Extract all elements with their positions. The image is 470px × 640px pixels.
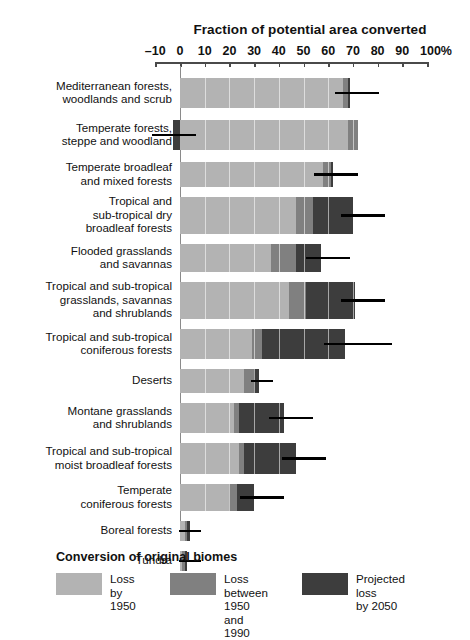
bar-segment-loss-by-1950 xyxy=(180,369,244,393)
bar-row: Tropical and sub-tropical dry broadleaf … xyxy=(0,197,470,234)
legend-label: Loss between 1950 and 1990 xyxy=(224,572,268,640)
bar-row: Temperate coniferous forests xyxy=(0,484,470,511)
bar-segment-loss-1950-1990 xyxy=(296,197,313,234)
legend-label: Loss by 1950 xyxy=(110,572,136,613)
plot-area: Mediterranean forests, woodlands and scr… xyxy=(0,66,470,538)
bar-segment-loss-by-1950 xyxy=(180,443,239,474)
bar-segment-loss-by-1950 xyxy=(180,484,229,511)
bar-row: Boreal forests xyxy=(0,521,470,541)
stacked-bar xyxy=(0,282,470,319)
x-axis-tick-label: 100% xyxy=(420,44,452,58)
bar-row: Montane grasslands and shrublands xyxy=(0,403,470,433)
x-axis-tick-label: 60 xyxy=(321,44,335,58)
bar-segment-loss-by-1950 xyxy=(180,78,343,108)
error-bar xyxy=(152,134,196,136)
error-bar xyxy=(306,257,350,259)
x-axis-tick-label: –10 xyxy=(145,44,166,58)
stacked-bar xyxy=(0,162,470,187)
error-bar xyxy=(341,214,385,216)
bar-segment-loss-by-1950 xyxy=(180,244,271,272)
x-axis-tick-label: 30 xyxy=(247,44,261,58)
stacked-bar xyxy=(0,329,470,359)
chart-legend: Conversion of original biomes Loss by 19… xyxy=(0,550,470,618)
x-axis-tick-label: 0 xyxy=(177,44,184,58)
stacked-bar xyxy=(0,443,470,474)
error-bar xyxy=(324,343,392,345)
bar-row: Tropical and sub-tropical grasslands, sa… xyxy=(0,282,470,319)
bar-segment-loss-1950-1990 xyxy=(289,282,306,319)
error-bar xyxy=(282,457,326,459)
x-axis-line xyxy=(155,62,427,64)
bar-row: Mediterranean forests, woodlands and scr… xyxy=(0,78,470,108)
bar-segment-loss-by-1950 xyxy=(180,120,348,150)
error-bar xyxy=(240,496,284,498)
x-axis-tick-label: 70 xyxy=(346,44,360,58)
error-bar xyxy=(341,299,385,301)
bar-row: Temperate forests, steppe and woodland xyxy=(0,120,470,150)
chart-title: Fraction of potential area converted xyxy=(160,22,460,37)
stacked-bar xyxy=(0,78,470,108)
bar-row: Flooded grasslands and savannas xyxy=(0,244,470,272)
x-axis-tick-label: 10 xyxy=(198,44,212,58)
bar-row: Temperate broadleaf and mixed forests xyxy=(0,162,470,187)
bar-segment-loss-by-1950 xyxy=(180,162,323,187)
stacked-bar xyxy=(0,521,470,541)
bar-row: Tropical and sub-tropical moist broadlea… xyxy=(0,443,470,474)
stacked-bar xyxy=(0,369,470,393)
stacked-bar xyxy=(0,197,470,234)
bar-segment-loss-1950-1990 xyxy=(252,329,262,359)
bar-row: Deserts xyxy=(0,369,470,393)
stacked-bar xyxy=(0,120,470,150)
legend-swatch xyxy=(170,573,216,595)
bar-segment-loss-1950-1990 xyxy=(271,244,296,272)
stacked-bar xyxy=(0,403,470,433)
legend-swatch xyxy=(302,573,348,595)
bar-segment-loss-1950-1990 xyxy=(229,484,236,511)
error-bar xyxy=(335,92,379,94)
x-axis-tick-label: 50 xyxy=(297,44,311,58)
legend-swatch xyxy=(56,573,102,595)
legend-label: Projected loss by 2050 xyxy=(356,572,405,613)
legend-title: Conversion of original biomes xyxy=(56,550,237,564)
x-axis-tick-label: 20 xyxy=(222,44,236,58)
error-bar xyxy=(179,530,201,532)
bar-segment-loss-1950-1990 xyxy=(348,120,358,150)
stacked-bar xyxy=(0,484,470,511)
error-bar xyxy=(251,380,273,382)
x-axis-tick-label: 80 xyxy=(371,44,385,58)
x-axis: –100102030405060708090100% xyxy=(0,44,470,66)
bar-segment-loss-by-1950 xyxy=(180,403,234,433)
x-axis-tick-label: 90 xyxy=(395,44,409,58)
bar-segment-loss-by-1950 xyxy=(180,282,289,319)
stacked-bar xyxy=(0,244,470,272)
x-axis-tick-label: 40 xyxy=(272,44,286,58)
bar-segment-loss-by-1950 xyxy=(180,329,252,359)
bar-row: Tropical and sub-tropical coniferous for… xyxy=(0,329,470,359)
error-bar xyxy=(269,417,313,419)
bar-segment-loss-by-1950 xyxy=(180,197,296,234)
error-bar xyxy=(314,173,358,175)
